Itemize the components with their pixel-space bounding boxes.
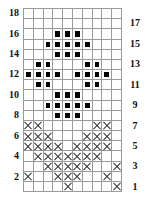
cross-mark-icon bbox=[24, 141, 34, 151]
filled-square-icon bbox=[83, 40, 93, 50]
cross-mark-icon bbox=[34, 141, 44, 151]
filled-square-icon bbox=[63, 29, 73, 39]
grid-cell bbox=[44, 90, 54, 100]
filled-square-icon bbox=[102, 70, 112, 80]
grid-cell bbox=[112, 101, 122, 111]
row-label-7: 7 bbox=[127, 121, 143, 131]
cross-mark-icon bbox=[34, 151, 44, 161]
row-label-18: 18 bbox=[3, 8, 19, 18]
cross-mark-icon bbox=[73, 151, 83, 161]
filled-square-icon bbox=[44, 70, 54, 80]
grid-cell bbox=[93, 29, 103, 39]
grid-cell bbox=[112, 131, 122, 141]
grid-cell bbox=[73, 131, 83, 141]
grid-cell bbox=[112, 111, 122, 121]
filled-square-icon bbox=[83, 60, 93, 70]
cross-mark-icon bbox=[93, 121, 103, 131]
row-label-13: 13 bbox=[127, 59, 143, 69]
cross-mark-icon bbox=[24, 121, 34, 131]
filled-square-icon bbox=[63, 40, 73, 50]
filled-square-icon bbox=[34, 70, 44, 80]
filled-square-icon bbox=[44, 101, 54, 111]
grid-cell bbox=[112, 60, 122, 70]
cross-mark-icon bbox=[102, 131, 112, 141]
cross-mark-icon bbox=[44, 131, 54, 141]
cross-mark-icon bbox=[34, 121, 44, 131]
grid-cell bbox=[102, 111, 112, 121]
grid-cell bbox=[112, 121, 122, 131]
grid-cell bbox=[53, 80, 63, 90]
filled-square-icon bbox=[24, 70, 34, 80]
filled-square-icon bbox=[44, 80, 54, 90]
row-label-2: 2 bbox=[3, 172, 19, 182]
grid-cell bbox=[34, 50, 44, 60]
grid-cell bbox=[73, 19, 83, 29]
grid-cell bbox=[102, 60, 112, 70]
grid-cell bbox=[63, 80, 73, 90]
grid-cell bbox=[63, 141, 73, 151]
cross-mark-icon bbox=[44, 151, 54, 161]
pattern-grid bbox=[23, 8, 122, 192]
grid-cell bbox=[44, 182, 54, 192]
filled-square-icon bbox=[44, 40, 54, 50]
grid-cell bbox=[34, 9, 44, 19]
grid-cell bbox=[112, 9, 122, 19]
filled-square-icon bbox=[53, 70, 63, 80]
row-label-8: 8 bbox=[3, 110, 19, 120]
cross-mark-icon bbox=[73, 172, 83, 182]
cross-mark-icon bbox=[93, 151, 103, 161]
grid-cell bbox=[34, 162, 44, 172]
cross-mark-icon bbox=[63, 151, 73, 161]
row-label-1: 1 bbox=[127, 182, 143, 192]
filled-square-icon bbox=[73, 101, 83, 111]
filled-square-icon bbox=[53, 90, 63, 100]
cross-mark-icon bbox=[112, 182, 122, 192]
cross-mark-icon bbox=[102, 121, 112, 131]
grid-cell bbox=[34, 182, 44, 192]
grid-cell bbox=[63, 121, 73, 131]
grid-cell bbox=[102, 101, 112, 111]
grid-cell bbox=[34, 111, 44, 121]
row-label-14: 14 bbox=[3, 49, 19, 59]
cross-mark-icon bbox=[102, 172, 112, 182]
filled-square-icon bbox=[53, 40, 63, 50]
grid-cell bbox=[83, 121, 93, 131]
grid-cell bbox=[102, 80, 112, 90]
grid-cell bbox=[102, 40, 112, 50]
grid-cell bbox=[112, 40, 122, 50]
row-label-5: 5 bbox=[127, 141, 143, 151]
cross-mark-icon bbox=[73, 162, 83, 172]
cross-mark-icon bbox=[93, 141, 103, 151]
grid-cell bbox=[24, 60, 34, 70]
grid-cell bbox=[53, 121, 63, 131]
grid-cell bbox=[24, 29, 34, 39]
grid-cell bbox=[63, 9, 73, 19]
grid-cell bbox=[44, 172, 54, 182]
grid-cell bbox=[63, 131, 73, 141]
filled-square-icon bbox=[93, 70, 103, 80]
cross-mark-icon bbox=[24, 172, 34, 182]
grid-cell bbox=[93, 101, 103, 111]
grid-cell bbox=[83, 50, 93, 60]
row-label-4: 4 bbox=[3, 151, 19, 161]
grid-cell bbox=[112, 50, 122, 60]
grid-cell bbox=[83, 182, 93, 192]
grid-cell bbox=[93, 19, 103, 29]
cross-mark-icon bbox=[102, 141, 112, 151]
cross-mark-icon bbox=[53, 172, 63, 182]
grid-cell bbox=[93, 111, 103, 121]
filled-square-icon bbox=[53, 29, 63, 39]
grid-cell bbox=[83, 19, 93, 29]
filled-square-icon bbox=[73, 29, 83, 39]
filled-square-icon bbox=[53, 101, 63, 111]
grid-cell bbox=[102, 162, 112, 172]
grid-cell bbox=[24, 182, 34, 192]
grid-cell bbox=[24, 111, 34, 121]
grid-cell bbox=[112, 172, 122, 182]
filled-square-icon bbox=[63, 111, 73, 121]
grid-cell bbox=[73, 80, 83, 90]
grid-cell bbox=[93, 162, 103, 172]
grid-cell bbox=[112, 141, 122, 151]
filled-square-icon bbox=[63, 101, 73, 111]
grid-cell bbox=[53, 9, 63, 19]
